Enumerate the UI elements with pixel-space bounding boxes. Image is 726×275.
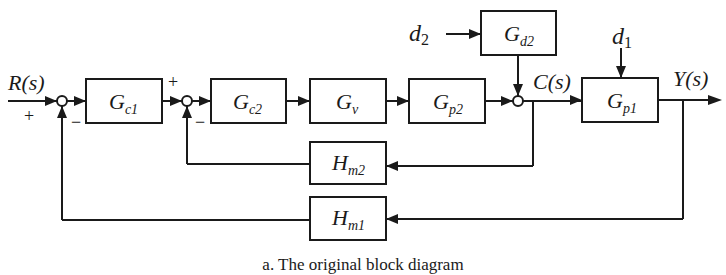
arrow-head [386,214,398,224]
summing-junction-2 [182,96,192,106]
sign-sum2-input: + [168,72,178,92]
arrow-head [397,96,409,106]
label-output-y: Y(s) [673,66,708,91]
arrow-head [45,96,57,106]
arrow-head [616,66,626,78]
arrow-head [570,95,582,105]
label-d1: d1 [612,23,632,51]
summing-junction-1 [57,96,67,106]
arrow-head [386,161,398,171]
arrow-head [199,96,211,106]
arrow-head [57,106,67,118]
arrow-head [708,95,722,105]
arrow-head [298,96,310,106]
arrow-head [182,106,192,118]
arrow-head [501,96,513,106]
arrow-head [170,96,182,106]
arrow-head [469,29,481,39]
block-diagram: Gc1 Gc2 Gv Gp2 Gd2 Gp1 Hm2 Hm1 R(s) C(s)… [0,0,726,275]
sign-sum2-feedback: − [195,112,205,132]
figure-caption: a. The original block diagram [262,255,463,274]
sign-sum1-feedback: − [71,112,81,132]
sign-sum1-input: + [24,106,34,126]
arrow-head [513,84,523,96]
summing-junction-3 [513,96,523,106]
arrow-head [74,96,86,106]
label-input-r: R(s) [7,70,45,95]
label-c: C(s) [533,69,571,94]
label-d2: d2 [409,20,429,48]
